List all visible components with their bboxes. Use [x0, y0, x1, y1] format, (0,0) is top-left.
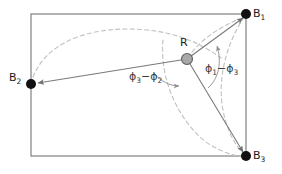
beacon-B1-letter: B	[253, 7, 261, 20]
beacon-B1-subscript: 1	[261, 13, 266, 22]
diagram-svg	[0, 0, 282, 174]
ray-group	[38, 18, 243, 152]
dashed-arc-group	[31, 17, 244, 157]
node-group	[26, 9, 251, 161]
phi-subscript-2: 2	[158, 76, 163, 85]
minus-operator-1: −	[141, 70, 150, 83]
beacon-B2-dot[interactable]	[26, 79, 36, 89]
phi-symbol-2: ϕ	[150, 70, 157, 83]
figure-canvas: B1 B2 B3 R ϕ3−ϕ2 ϕ1−ϕ3	[0, 0, 282, 174]
beacon-B3-subscript: 3	[261, 155, 266, 164]
phi-subscript-1: 1	[212, 68, 217, 77]
beacon-B1-label: B1	[253, 8, 265, 19]
ray-R-to-B1	[187, 18, 243, 59]
robot-R-letter: R	[180, 36, 188, 49]
beacon-B3-label: B3	[253, 150, 265, 161]
arena-rectangle	[31, 14, 246, 156]
beacon-B3-letter: B	[253, 149, 261, 162]
phi-symbol-3b: ϕ	[226, 62, 233, 75]
minus-operator-2: −	[217, 62, 226, 75]
angle-label-phi3-minus-phi2: ϕ3−ϕ2	[129, 71, 162, 82]
beacon-B1-dot[interactable]	[241, 9, 251, 19]
phi-subscript-3: 3	[136, 76, 141, 85]
circle-B1-B3-arc	[221, 17, 244, 154]
beacon-B2-subscript: 2	[17, 77, 22, 86]
beacon-B3-dot[interactable]	[241, 151, 251, 161]
beacon-B2-label: B2	[9, 72, 21, 83]
robot-R-dot[interactable]	[182, 54, 193, 65]
beacon-B2-letter: B	[9, 71, 17, 84]
robot-R-label: R	[180, 37, 188, 48]
phi-subscript-3b: 3	[234, 68, 239, 77]
circle-R-B3-arc	[163, 40, 243, 157]
angle-label-phi1-minus-phi3: ϕ1−ϕ3	[205, 63, 238, 74]
